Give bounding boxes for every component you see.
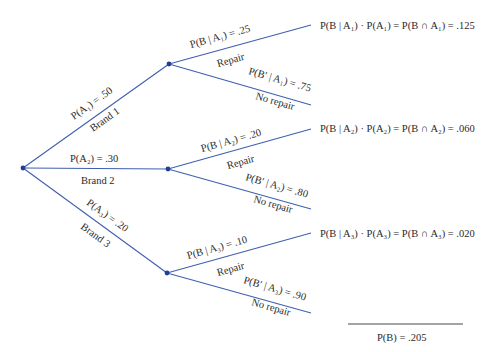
norepair-label-3: No repair [250,296,292,318]
repair-prob-2: P(B | A₂) = .20 [200,127,263,155]
total-probability: P(B) = .205 [377,332,426,344]
node-brand-3 [165,271,170,276]
root-node [21,166,26,171]
repair-prob-3: P(B | A₃) = .10 [186,234,249,262]
repair-label-1: Repair [216,51,246,69]
node-brand-1 [167,62,172,67]
result-2: P(B | A₂) · P(A₂) = P(B ∩ A₂) = .060 [320,123,475,135]
repair-label-2: Repair [226,153,256,171]
branch-brand-2 [23,168,168,169]
probability-tree-diagram: P(A₁) = .50 Brand 1 P(A₂) = .30 Brand 2 … [0,0,499,352]
name-label-brand-2: Brand 2 [81,175,115,186]
result-1: P(B | A₁) · P(A₁) = P(B ∩ A₁) = .125 [320,20,475,32]
name-label-brand-3: Brand 3 [79,221,113,250]
repair-label-3: Repair [216,260,246,278]
norepair-label-1: No repair [254,90,296,112]
prob-label-brand-2: P(A₂) = .30 [70,153,118,165]
result-3: P(B | A₃) · P(A₃) = P(B ∩ A₃) = .020 [320,228,475,240]
node-brand-2 [166,167,171,172]
norepair-label-2: No repair [252,193,294,215]
repair-prob-1: P(B | A₁) = .25 [189,23,252,51]
